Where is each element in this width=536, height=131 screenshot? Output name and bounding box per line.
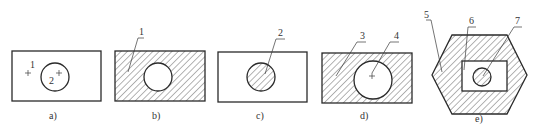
panel-d: 3 4 d) <box>322 30 412 122</box>
caption-a: a) <box>49 110 57 122</box>
caption-d: d) <box>360 110 368 122</box>
leader-label-2: 2 <box>278 27 283 38</box>
circle-shape <box>41 63 69 91</box>
cross-marker-1 <box>25 70 31 76</box>
panel-b: 1 b) <box>115 26 205 122</box>
point-label-2: 2 <box>49 75 54 86</box>
caption-e: e) <box>475 113 483 125</box>
leader-label-4: 4 <box>394 30 399 41</box>
panel-a: 1 2 a) <box>12 51 101 122</box>
leader-label-5: 5 <box>424 9 429 20</box>
panel-e: 5 6 7 e) <box>424 9 527 125</box>
rectangle-shape <box>12 51 101 101</box>
cross-marker-2 <box>56 70 62 76</box>
caption-b: b) <box>152 110 160 122</box>
hatched-region <box>115 51 205 101</box>
caption-c: c) <box>256 110 264 122</box>
leader-label-1: 1 <box>139 26 144 37</box>
leader-label-7: 7 <box>515 15 520 26</box>
leader-label-3: 3 <box>360 30 365 41</box>
leader-label-6: 6 <box>469 15 474 26</box>
point-label-1: 1 <box>30 59 35 70</box>
panel-c: 2 c) <box>218 27 307 122</box>
diagram-canvas: 1 2 a) 1 b) 2 c) 3 4 d) <box>0 0 536 131</box>
hatched-region <box>322 53 412 103</box>
